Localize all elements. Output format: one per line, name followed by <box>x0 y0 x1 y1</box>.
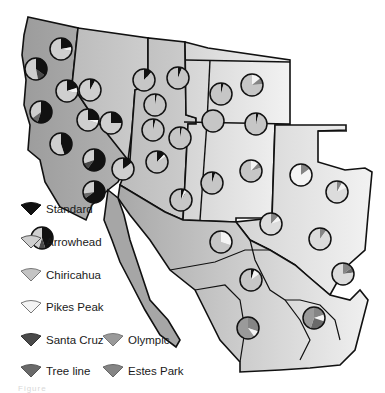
pie-chart-site <box>260 213 282 235</box>
pie-chart-site <box>83 181 105 203</box>
pie-chart-site <box>50 133 72 155</box>
pie-chart-site <box>210 231 232 253</box>
pie-chart-site <box>237 317 259 339</box>
pie-chart-site <box>77 109 99 131</box>
pie-chart-site <box>25 58 47 80</box>
pie-chart-site <box>133 69 155 91</box>
pie-chart-site <box>169 127 191 149</box>
pie-chart-site <box>202 110 224 132</box>
pie-chart-site <box>56 80 78 102</box>
pie-chart-site <box>142 119 164 141</box>
pie-chart-site <box>30 101 52 123</box>
pie-chart-site <box>326 181 348 203</box>
pie-chart-site <box>167 67 189 89</box>
pie-chart-site <box>144 94 166 116</box>
pie-chart-site <box>245 113 267 135</box>
figure-caption: Figure <box>18 384 47 393</box>
pie-chart-site <box>240 160 262 182</box>
pie-chart-site <box>210 83 232 105</box>
pie-chart-site <box>309 228 331 250</box>
pie-chart-site <box>303 307 325 329</box>
pie-chart-site <box>241 74 263 96</box>
pie-chart-site <box>79 79 101 101</box>
pie-chart-site <box>201 172 223 194</box>
pie-chart-site <box>112 158 134 180</box>
pie-chart-site <box>146 151 168 173</box>
pie-chart-site <box>83 149 105 171</box>
pie-chart-site <box>50 38 72 60</box>
pie-chart-site <box>170 189 192 211</box>
pie-chart-site <box>100 112 122 134</box>
pie-chart-site <box>290 164 312 186</box>
pie-chart-site <box>31 227 53 249</box>
map-figure <box>0 0 385 393</box>
pie-chart-site <box>332 263 354 285</box>
pie-chart-site <box>240 269 262 291</box>
